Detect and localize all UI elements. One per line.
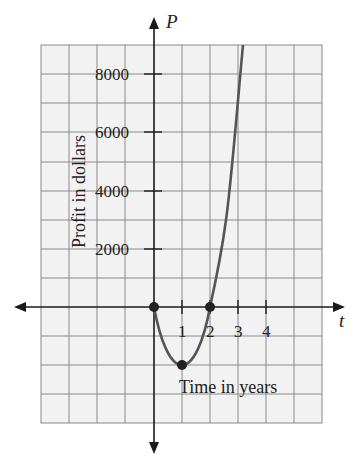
x-axis-left-arrow-icon — [14, 302, 26, 312]
y-axis-down-arrow-icon — [149, 442, 159, 454]
y-axis-symbol: P — [166, 12, 178, 31]
y-axis-label: Profit in dollars — [70, 135, 88, 248]
point-root-t2 — [205, 302, 215, 312]
point-origin — [149, 302, 159, 312]
point-minimum — [177, 360, 187, 370]
ytick-8000: 8000 — [95, 66, 129, 83]
ytick-2000: 2000 — [95, 241, 129, 258]
x-axis-label: Time in years — [179, 378, 277, 396]
x-axis-symbol: t — [339, 311, 344, 330]
y-axis-up-arrow-icon — [149, 17, 159, 29]
xtick-1: 1 — [178, 323, 187, 340]
ytick-4000: 4000 — [95, 183, 129, 200]
ytick-6000: 6000 — [95, 124, 129, 141]
xtick-4: 4 — [262, 323, 271, 340]
xtick-3: 3 — [234, 323, 243, 340]
xtick-2: 2 — [206, 323, 215, 340]
